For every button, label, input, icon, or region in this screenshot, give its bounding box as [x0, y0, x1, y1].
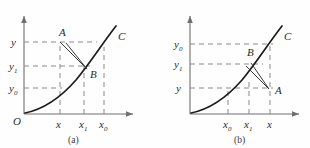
x-label-b-1-sub: 1: [249, 125, 253, 133]
point-label-a-B: B: [90, 68, 97, 80]
svg-text:x1: x1: [78, 118, 87, 133]
y-axis-arrow-b: [187, 16, 193, 23]
panel-b: y0 y1 y x0 x1 x B A C: [155, 0, 310, 148]
point-label-b-A: A: [274, 84, 282, 96]
x-tick-labels-b: x0 x1 x: [222, 118, 272, 133]
svg-text:x0: x0: [98, 118, 108, 133]
y-label-b-0-sub: 0: [179, 45, 183, 53]
y-label-a-2-sub: 0: [14, 89, 18, 97]
x-axis-arrow-a: [126, 111, 133, 117]
y-label-b-1-sub: 1: [179, 65, 183, 73]
x-tick-labels-a: x x1 x0: [55, 118, 108, 133]
curve-b: [191, 26, 282, 113]
x-axis-arrow-b: [292, 111, 299, 117]
y-tick-labels-b: y0 y1 y: [173, 38, 183, 94]
curve-a: [25, 26, 116, 113]
svg-text:y1: y1: [8, 60, 17, 75]
point-label-b-B: B: [247, 46, 254, 58]
svg-text:x0: x0: [222, 118, 232, 133]
x-label-b-2: x: [266, 118, 272, 130]
horizontal-guides-b: [190, 44, 273, 88]
x-label-a-1-sub: 1: [84, 125, 88, 133]
origin-label-a: O: [13, 115, 21, 127]
connector-lines-a: [60, 42, 87, 69]
connector-a-upper: [60, 42, 87, 69]
figure-container: y y1 y0 x x1 x0 O A: [0, 0, 310, 148]
axes-b: [187, 16, 299, 117]
svg-text:y0: y0: [173, 38, 183, 53]
connector-b-right: [251, 63, 269, 89]
svg-text:x1: x1: [243, 118, 252, 133]
y-label-a-0: y: [10, 36, 16, 48]
x-label-a-2-sub: 0: [104, 125, 108, 133]
x-label-b-0-sub: 0: [228, 125, 232, 133]
svg-text:y1: y1: [173, 58, 182, 73]
caption-a: (a): [68, 135, 79, 146]
x-label-a-0: x: [55, 118, 61, 130]
y-label-b-2: y: [175, 82, 181, 94]
point-label-a-A: A: [58, 26, 66, 38]
point-label-b-C: C: [284, 30, 292, 42]
panel-a: y y1 y0 x x1 x0 O A: [0, 0, 155, 148]
y-label-a-1-sub: 1: [14, 67, 18, 75]
point-label-a-C: C: [118, 30, 126, 42]
connector-a-lower: [66, 43, 87, 69]
y-tick-labels-a: y y1 y0: [8, 36, 18, 97]
caption-b: (b): [234, 135, 245, 146]
y-axis-arrow-a: [21, 16, 27, 23]
svg-text:y0: y0: [8, 82, 18, 97]
